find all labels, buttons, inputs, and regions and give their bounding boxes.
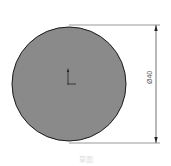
sketch-canvas: Ø40 草图 xyxy=(0,0,171,166)
arrow-up-icon xyxy=(154,25,157,31)
arrow-down-icon xyxy=(154,137,157,143)
dimension-label[interactable]: Ø40 xyxy=(146,71,153,84)
sketch-caption: 草图 xyxy=(0,154,171,164)
